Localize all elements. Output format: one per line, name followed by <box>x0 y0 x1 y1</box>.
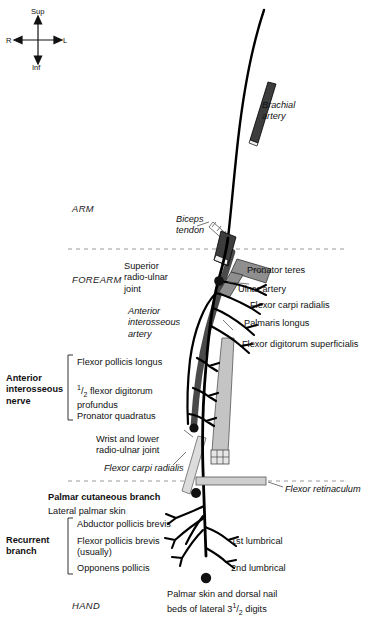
branch-label-flexor-carpi-radialis: Flexor carpi radialis <box>250 300 330 311</box>
group-title-anterior-interosseous-nerve: Anterior interosseous nerve <box>6 373 63 407</box>
label-ulnar-artery: Ulnar artery <box>238 284 286 295</box>
terminal-line-1: Palmar skin and dorsal nail <box>167 589 277 599</box>
flexor-retinaculum-shape <box>196 477 266 485</box>
recurrent-item-opponens-pollicis: Opponens pollicis <box>77 563 150 574</box>
ain-item-half-flexor-digitorum-profundus: 1/2 flexor digitorum profundus <box>77 382 153 412</box>
median-nerve-diagram <box>0 0 367 626</box>
group-title-recurrent-branch: Recurrent branch <box>6 535 49 558</box>
terminal-fraction-numerator: 1 <box>232 602 236 609</box>
label-superior-radio-ulnar-joint: Superior radio-ulnar joint <box>124 261 168 295</box>
compass-label-inferior: Inf <box>32 62 40 73</box>
recurrent-item-abductor-pollicis-brevis: Abductor pollicis brevis <box>77 519 171 530</box>
ulnar-artery-node <box>214 276 224 286</box>
compass-label-right: R <box>6 35 11 46</box>
label-second-lumbrical: 2nd lumbrical <box>231 563 286 574</box>
label-wrist-joint: Wrist and lower radio-ulnar joint <box>96 434 159 457</box>
terminal-line-2a: beds of lateral 3 <box>167 604 232 614</box>
recurrent-item-flexor-pollicis-brevis: Flexor pollicis brevis (usually) <box>77 536 160 559</box>
label-anterior-interosseous-artery: Anterior interosseous artery <box>128 306 180 340</box>
label-lateral-palmar-skin: Lateral palmar skin <box>48 506 126 517</box>
branch-label-flexor-digitorum-superficialis: Flexor digitorum superficialis <box>242 339 358 350</box>
region-label-hand: HAND <box>72 600 100 611</box>
nerve-terminal-node <box>201 573 211 583</box>
fraction-rest: flexor digitorum profundus <box>77 386 153 410</box>
compass-icon <box>14 16 62 64</box>
fraction-numerator: 1 <box>77 384 81 391</box>
label-brachial-artery: Brachial artery <box>262 100 295 123</box>
recurrent-branch-bracket <box>68 518 73 574</box>
branch-label-palmaris-longus: Palmaris longus <box>244 318 309 329</box>
label-flexor-retinaculum: Flexor retinaculum <box>285 484 361 495</box>
label-biceps-tendon: Biceps tendon <box>176 214 204 237</box>
compass-label-superior: Sup <box>31 6 45 17</box>
label-first-lumbrical: 1st lumbrical <box>231 536 283 547</box>
hand-branches-group <box>165 506 238 568</box>
label-terminal-distribution: Palmar skin and dorsal nailbeds of later… <box>167 589 277 619</box>
ain-item-pronator-quadratus: Pronator quadratus <box>77 411 156 422</box>
label-pronator-teres: Pronator teres <box>247 265 305 276</box>
label-flexor-carpi-radialis-tendon: Flexor carpi radialis <box>104 463 184 474</box>
region-label-arm: ARM <box>72 203 94 214</box>
palmar-cutaneous-node <box>191 488 201 498</box>
ain-item-flexor-pollicis-longus: Flexor pollicis longus <box>77 357 162 368</box>
label-palmar-cutaneous-branch: Palmar cutaneous branch <box>48 492 160 503</box>
compass-label-left: L <box>63 35 67 46</box>
terminal-line-2b: digits <box>243 604 267 614</box>
anterior-interosseous-bracket <box>68 355 73 420</box>
region-label-forearm: FOREARM <box>72 274 122 285</box>
